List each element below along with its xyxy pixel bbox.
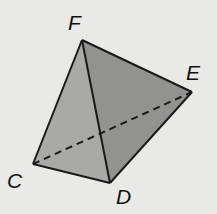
vertex-label-d: D bbox=[116, 185, 131, 208]
vertex-label-e: E bbox=[186, 61, 201, 84]
vertex-label-c: C bbox=[7, 169, 23, 192]
tetrahedron-diagram: F E C D bbox=[0, 0, 217, 214]
vertex-label-f: F bbox=[68, 11, 82, 34]
